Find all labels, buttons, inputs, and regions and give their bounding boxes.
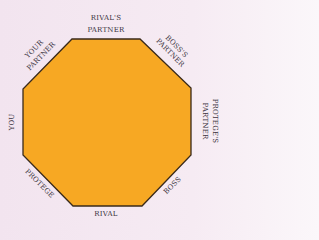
- seat-label-you: YOU: [8, 114, 16, 132]
- seat-label-line: RIVAL: [94, 210, 117, 218]
- seat-label-rivals-partner: RIVAL'S PARTNER: [88, 14, 125, 34]
- seat-label-line: PARTNER: [88, 26, 125, 34]
- seat-label-protege-partner: PROTEGE'S PARTNER: [201, 99, 219, 144]
- seat-label-line: RIVAL'S: [91, 14, 121, 22]
- seat-label-rival: RIVAL: [94, 210, 117, 218]
- seating-diagram: RIVAL'S PARTNER BOSS'S PARTNER PROTEGE'S…: [0, 0, 225, 227]
- octagon-table: [23, 39, 191, 206]
- seat-label-line: PARTNER: [201, 103, 209, 140]
- seat-label-line: YOU: [8, 114, 16, 132]
- seat-label-line: PROTEGE'S: [211, 99, 219, 144]
